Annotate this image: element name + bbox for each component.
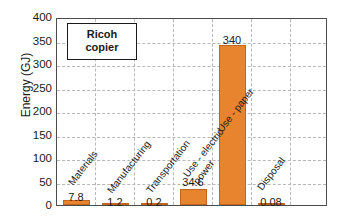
y-tick-label: 200 bbox=[22, 106, 52, 118]
y-tick-label: 50 bbox=[22, 177, 52, 189]
gridline-horizontal bbox=[57, 66, 326, 67]
bar-value-label: 0.08 bbox=[252, 197, 290, 208]
gridline-horizontal bbox=[57, 113, 326, 114]
bar-value-label: 7.8 bbox=[57, 192, 95, 203]
bar-value-label: 340 bbox=[213, 35, 251, 46]
y-axis-tick-labels: 400 350 300 250 200 150 100 50 0 bbox=[18, 0, 52, 223]
annotation-line-2: copier bbox=[70, 41, 134, 54]
bar-value-label: 0.2 bbox=[135, 197, 173, 208]
plot-area: 7.8 1.2 0.2 34.6 340 0.08 Materials Manu… bbox=[56, 18, 327, 206]
y-tick-label: 350 bbox=[22, 36, 52, 48]
gridline-horizontal bbox=[57, 137, 326, 138]
annotation-box: Ricoh copier bbox=[67, 23, 137, 60]
gridline-vertical bbox=[290, 19, 291, 205]
y-tick-label: 400 bbox=[22, 12, 52, 24]
bar-use-electric-power[interactable] bbox=[180, 189, 207, 205]
gridline-vertical bbox=[251, 19, 252, 205]
y-tick-label: 100 bbox=[22, 153, 52, 165]
gridline-vertical bbox=[212, 19, 213, 205]
gridline-horizontal bbox=[57, 90, 326, 91]
y-tick-label: 0 bbox=[22, 200, 52, 212]
annotation-line-1: Ricoh bbox=[70, 28, 134, 41]
y-tick-label: 250 bbox=[22, 83, 52, 95]
y-tick-label: 300 bbox=[22, 59, 52, 71]
chart-figure: Energy (GJ) 400 350 300 250 200 150 100 … bbox=[0, 0, 350, 223]
bar-value-label: 1.2 bbox=[96, 197, 134, 208]
y-tick-label: 150 bbox=[22, 130, 52, 142]
